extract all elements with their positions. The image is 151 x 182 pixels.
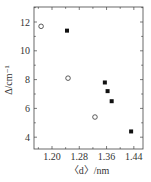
open-circle-marker (39, 24, 44, 29)
y-axis-label: Δ/cm⁻¹ (3, 65, 14, 95)
filled-square-marker (65, 29, 69, 33)
open-circle-marker (66, 76, 71, 81)
y-tick-label: 6 (25, 103, 30, 114)
x-axis-ticks: 1.201.281.361.44 (38, 7, 142, 162)
y-tick-label: 10 (20, 45, 30, 56)
filled-square-marker (103, 80, 107, 84)
y-tick-label: 4 (25, 132, 30, 143)
plot-frame (34, 7, 143, 149)
x-tick-label: 1.28 (71, 151, 89, 162)
data-points (39, 24, 133, 133)
y-tick-label: 8 (25, 74, 30, 85)
x-tick-label: 1.44 (125, 151, 143, 162)
x-axis-label: 〈d〉/nm (69, 165, 110, 176)
y-axis-ticks: 4681012 (20, 8, 143, 143)
x-tick-label: 1.36 (98, 151, 116, 162)
open-circle-marker (93, 115, 98, 120)
y-tick-label: 12 (20, 17, 30, 28)
x-tick-label: 1.20 (43, 151, 61, 162)
axes-box (34, 7, 143, 149)
filled-square-marker (129, 129, 133, 133)
scatter-chart: 4681012 1.201.281.361.44 Δ/cm⁻¹ 〈d〉/nm (0, 0, 151, 182)
filled-square-marker (106, 89, 110, 93)
filled-square-marker (110, 99, 114, 103)
